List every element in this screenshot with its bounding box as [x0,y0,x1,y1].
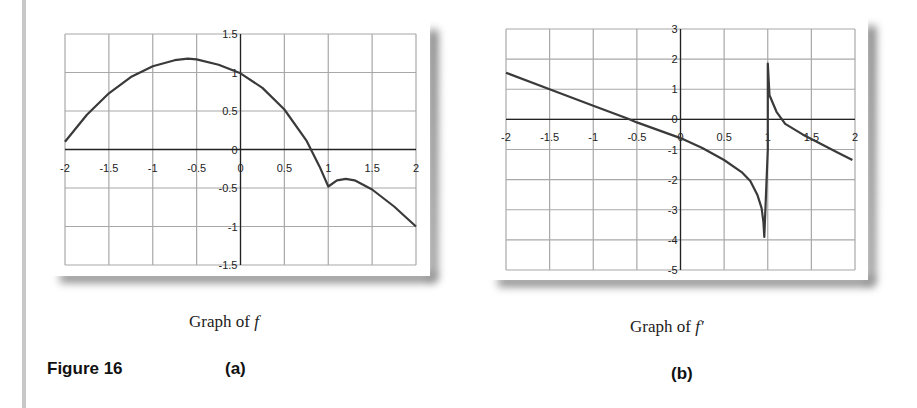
caption-a: Graph of f [189,312,259,332]
x-tick-label: -1 [588,131,598,143]
caption-b-symbol: f′ [695,317,703,336]
x-tick-label: 2 [852,131,858,143]
figure-label: Figure 16 [47,359,123,379]
y-tick-label: -3 [668,204,678,216]
caption-a-prefix: Graph of [189,312,250,331]
y-tick-label: -2 [668,174,678,186]
y-tick-label: 2 [671,53,677,65]
subfigure-a-label: (a) [225,359,246,379]
subfigure-b-label: (b) [671,364,693,384]
y-tick-label: -5 [668,264,678,276]
y-tick-label: -4 [668,234,678,246]
x-tick-label: -0.5 [627,131,646,143]
chart-b-plot: 3210-1-2-3-4-5-2-1.5-1-0.500.511.52 [0,0,917,408]
y-tick-label: -1 [668,144,678,156]
y-tick-label: 0 [671,113,677,125]
y-tick-label: 3 [671,23,677,35]
caption-b: Graph of f′ [630,317,704,337]
y-tick-label: 1 [671,83,677,95]
x-tick-label: -2 [501,131,511,143]
x-tick-label: 0.5 [716,131,731,143]
x-tick-label: -1.5 [540,131,559,143]
caption-b-prefix: Graph of [630,317,691,336]
caption-a-symbol: f [254,312,259,331]
